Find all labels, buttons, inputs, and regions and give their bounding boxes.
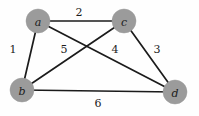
edge-c-d [124, 21, 175, 92]
edge-a-d [38, 21, 175, 92]
edge-weight-a-b: 1 [10, 43, 17, 56]
edge-weight-c-d: 3 [154, 43, 161, 56]
node-a-label: a [35, 16, 42, 29]
edge-b-d [22, 90, 175, 92]
node-b-label: b [18, 85, 25, 98]
edge-weight-b-c: 5 [61, 43, 68, 56]
weighted-graph-figure: a c b d 2 1 5 4 3 6 [0, 0, 199, 116]
edge-weight-a-d: 4 [112, 43, 119, 56]
graph-canvas: a c b d 2 1 5 4 3 6 [0, 0, 199, 116]
edge-weight-a-c: 2 [76, 6, 83, 19]
edge-weight-b-d: 6 [95, 97, 102, 110]
node-c-label: c [121, 16, 127, 29]
node-d-label: d [171, 87, 178, 100]
edge-group [22, 21, 175, 92]
